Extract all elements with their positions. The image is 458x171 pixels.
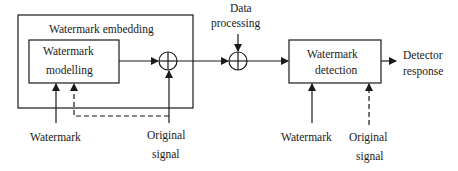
watermark-input-label-right: Watermark [281, 130, 332, 145]
adder-embedding-icon [159, 52, 177, 70]
detector-output-label-line2: response [403, 64, 443, 79]
embedding-block-title: Watermark embedding [49, 22, 154, 37]
data-processing-label-line2: processing [211, 16, 260, 31]
original-signal-label-right-line1: Original [349, 130, 387, 145]
detection-block-label-line1: Watermark [307, 47, 358, 62]
original-signal-label-left-line1: Original [147, 128, 185, 143]
original-signal-label-right-line2: signal [356, 149, 383, 164]
detection-block-label-line2: detection [315, 63, 357, 78]
modelling-block-label-line1: Watermark [43, 44, 94, 59]
original-signal-label-left-line2: signal [152, 147, 179, 162]
detector-output-label-line1: Detector [403, 48, 443, 63]
adder-processing-icon [229, 52, 247, 70]
watermark-input-label-left: Watermark [30, 130, 81, 145]
data-processing-label-line1: Data [230, 1, 252, 16]
modelling-block-label-line2: modelling [46, 63, 93, 78]
original-signal-dashed-feed [74, 84, 169, 116]
